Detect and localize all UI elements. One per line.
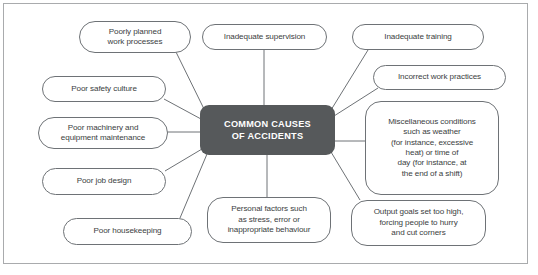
connector-hub-to-poorly-planned-work-processes [176,52,205,111]
node-label: Poor safety culture [47,84,161,94]
node-label-line: Poor housekeeping [68,226,187,236]
node-label-line: day (for instance, at [370,158,494,168]
node-label-line: Poor safety culture [47,84,161,94]
connector-hub-to-poor-housekeeping [180,154,207,218]
node-label: Inadequate supervision [207,32,322,42]
node-label-line: Poor machinery and [43,123,163,133]
connector-hub-to-poor-job-design [165,149,202,171]
node-label-line: Personal factors such [212,204,326,214]
node-label-line: Output goals set too high, [356,207,481,217]
hub-label-line-1: COMMON CAUSES [224,119,311,129]
node-label: Incorrect work practices [378,72,501,82]
node-poor-machinery-and-equipment-maintenance[interactable]: Poor machinery andequipment maintenance [38,117,168,149]
node-poorly-planned-work-processes[interactable]: Poorly plannedwork processes [79,21,191,53]
hub-label-line-2: OF ACCIDENTS [232,131,304,141]
node-inadequate-supervision[interactable]: Inadequate supervision [202,24,327,50]
node-label-line: Inadequate training [357,32,479,42]
node-label-line: equipment maintenance [43,133,163,143]
node-label-line: as stress, error or [212,215,326,225]
node-incorrect-work-practices[interactable]: Incorrect work practices [373,65,506,90]
node-label: Output goals set too high,forcing people… [356,207,481,238]
node-label: Poor machinery andequipment maintenance [43,123,163,144]
node-poor-safety-culture[interactable]: Poor safety culture [42,76,166,102]
hub-node[interactable]: COMMON CAUSES OF ACCIDENTS [200,105,335,155]
node-label-line: Poorly planned [84,27,186,37]
node-label: Miscellaneous conditionssuch as weather(… [370,117,494,179]
node-personal-factors[interactable]: Personal factors suchas stress, error or… [207,197,331,243]
node-label: Poor job design [47,176,161,186]
node-label: Poorly plannedwork processes [84,27,186,48]
node-label: Personal factors suchas stress, error or… [212,204,326,235]
node-label-line: and cut corners [356,228,481,238]
node-inadequate-training[interactable]: Inadequate training [352,24,484,50]
hub-label: COMMON CAUSES OF ACCIDENTS [224,118,311,142]
node-label-line: work processes [84,37,186,47]
node-output-goals-set-too-high[interactable]: Output goals set too high,forcing people… [351,200,486,246]
connector-hub-to-output-goals [331,152,360,200]
node-label-line: Miscellaneous conditions [370,117,494,127]
node-poor-housekeeping[interactable]: Poor housekeeping [63,218,192,245]
node-label-line: such as weather [370,127,494,137]
diagram-canvas: Poorly plannedwork processesInadequate s… [0,0,538,275]
node-label-line: Poor job design [47,176,161,186]
node-miscellaneous-conditions[interactable]: Miscellaneous conditionssuch as weather(… [365,101,499,195]
node-label-line: Inadequate supervision [207,32,322,42]
connector-hub-to-inadequate-training [331,50,368,110]
node-label-line: Incorrect work practices [378,72,501,82]
connector-hub-to-poor-safety-culture [164,99,201,119]
node-label-line: inappropriate behaviour [212,225,326,235]
node-label-line: the end of a shift) [370,169,494,179]
node-label-line: (for instance, excessive [370,138,494,148]
node-label: Inadequate training [357,32,479,42]
node-label-line: heat) or time of [370,148,494,158]
node-label-line: forcing people to hurry [356,218,481,228]
node-poor-job-design[interactable]: Poor job design [42,168,166,195]
node-label: Poor housekeeping [68,226,187,236]
